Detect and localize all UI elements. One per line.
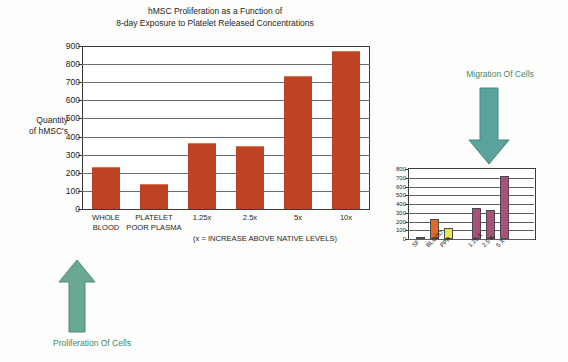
- figure-container: hMSC Proliferation as a Function of 8-da…: [0, 0, 568, 362]
- down-arrow-icon: [467, 86, 511, 166]
- main-chart-title: hMSC Proliferation as a Function of 8-da…: [55, 6, 375, 29]
- y-tick-mark: [78, 46, 82, 47]
- bar: [92, 167, 120, 209]
- y-tick-mark: [78, 64, 82, 65]
- y-tick-mark: [78, 191, 82, 192]
- x-tick-label: SF: [411, 239, 421, 249]
- y-tick-label: 400: [386, 201, 406, 207]
- y-tick-mark: [405, 239, 408, 240]
- y-tick-mark: [405, 195, 408, 196]
- y-tick-mark: [78, 100, 82, 101]
- y-tick-mark: [405, 230, 408, 231]
- main-x-axis-label: (x = INCREASE ABOVE NATIVE LEVELS): [150, 234, 380, 243]
- y-tick-label: 100: [50, 187, 80, 196]
- y-tick-mark: [405, 169, 408, 170]
- y-tick-label: 400: [50, 133, 80, 142]
- x-tick-label-line: POOR PLASMA: [118, 223, 190, 233]
- y-tick-label: 600: [50, 96, 80, 105]
- y-tick-label: 300: [50, 151, 80, 160]
- main-bars-group: [82, 46, 370, 209]
- bar: [188, 143, 216, 209]
- y-tick-mark: [405, 222, 408, 223]
- migration-caption: Migration Of Cells: [432, 69, 568, 79]
- y-tick-label: 600: [386, 184, 406, 190]
- x-tick-label-line: 10x: [310, 213, 382, 223]
- y-tick-label: 100: [386, 227, 406, 233]
- main-bar-chart: hMSC Proliferation as a Function of 8-da…: [0, 0, 390, 262]
- bar: [500, 176, 509, 239]
- inset-bar-chart: 8007006005004003002001000 SFBLOODPPP1.25…: [386, 166, 562, 278]
- bar: [236, 146, 264, 209]
- bar: [140, 184, 168, 209]
- y-tick-label: 500: [50, 114, 80, 123]
- y-tick-mark: [405, 213, 408, 214]
- y-tick-mark: [78, 82, 82, 83]
- y-tick-mark: [405, 187, 408, 188]
- y-tick-mark: [78, 155, 82, 156]
- y-tick-mark: [78, 173, 82, 174]
- y-tick-label: 700: [50, 78, 80, 87]
- y-tick-mark: [78, 137, 82, 138]
- x-tick-label: 10x: [310, 213, 382, 223]
- y-tick-label: 200: [50, 169, 80, 178]
- y-tick-mark: [405, 204, 408, 205]
- y-tick-label: 800: [50, 60, 80, 69]
- inset-bars-group: [409, 169, 535, 239]
- y-tick-label: 300: [386, 210, 406, 216]
- y-tick-label: 0: [386, 236, 406, 242]
- up-arrow-icon: [57, 258, 97, 334]
- bar: [332, 51, 360, 209]
- proliferation-caption: Proliferation Of Cells: [2, 338, 182, 348]
- y-tick-label: 800: [386, 166, 406, 172]
- inset-x-tick-labels: SFBLOODPPP1.25 X2.5 X5 X: [409, 242, 549, 276]
- main-chart-title-line1: hMSC Proliferation as a Function of: [55, 6, 375, 18]
- y-tick-label: 700: [386, 175, 406, 181]
- y-tick-label: 200: [386, 219, 406, 225]
- y-tick-mark: [405, 178, 408, 179]
- main-chart-title-line2: 8-day Exposure to Platelet Released Conc…: [55, 18, 375, 30]
- bar: [284, 76, 312, 209]
- y-tick-mark: [78, 118, 82, 119]
- y-tick-label: 900: [50, 42, 80, 51]
- y-tick-mark: [78, 209, 82, 210]
- main-y-tick-labels: 9008007006005004003002001000: [50, 40, 80, 216]
- y-tick-label: 500: [386, 192, 406, 198]
